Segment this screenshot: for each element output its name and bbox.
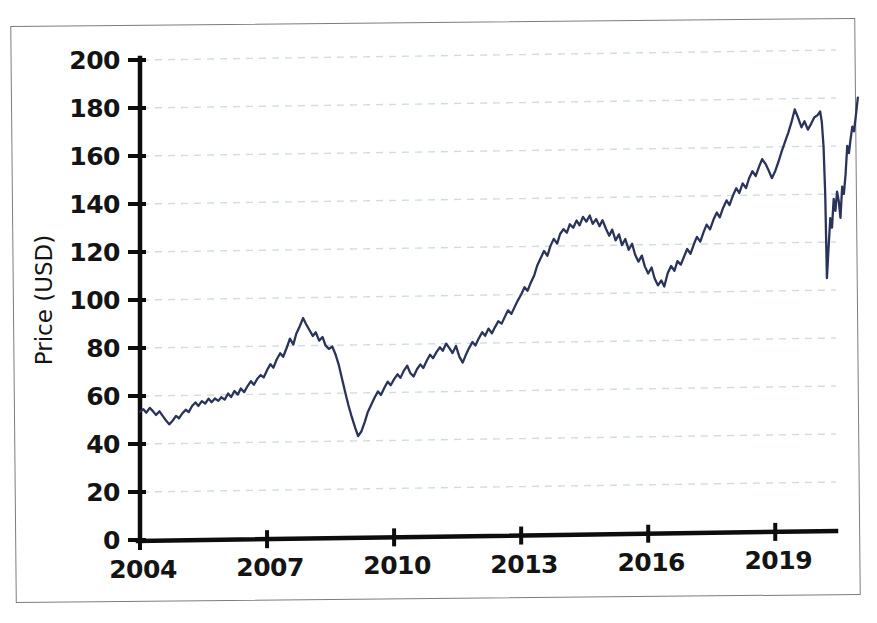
y-tick-label: 20	[86, 478, 120, 507]
y-tick-label: 180	[69, 94, 120, 123]
y-tick-label: 120	[69, 238, 120, 267]
gridline	[142, 50, 836, 60]
gridline	[142, 242, 836, 252]
y-tick-label: 100	[69, 286, 120, 315]
y-tick-group: 020406080100120140160180200	[69, 46, 146, 555]
y-axis-title: Price (USD)	[31, 235, 57, 366]
y-tick-label: 80	[86, 334, 120, 363]
gridline	[142, 98, 836, 108]
x-tick-label: 2019	[744, 546, 812, 575]
price-series-line	[140, 98, 858, 436]
chart-page: 020406080100120140160180200 200420072010…	[0, 0, 877, 623]
line-chart: 020406080100120140160180200 200420072010…	[0, 0, 877, 623]
y-tick-label: 140	[69, 190, 120, 219]
y-tick-label: 40	[86, 430, 120, 459]
x-tick-label: 2013	[490, 550, 558, 579]
gridline-group	[142, 50, 836, 492]
y-tick-label: 0	[103, 526, 120, 555]
x-tick-label: 2004	[109, 555, 177, 584]
x-tick-label: 2016	[617, 548, 685, 577]
gridline	[142, 434, 836, 444]
y-tick-label: 200	[69, 46, 120, 75]
x-axis-line	[138, 531, 836, 541]
gridline	[142, 290, 836, 300]
y-tick-label: 160	[69, 142, 120, 171]
y-tick-label: 60	[86, 382, 120, 411]
x-tick-label: 2007	[236, 553, 304, 582]
x-tick-label: 2010	[363, 551, 431, 580]
gridline	[142, 338, 836, 348]
gridline	[142, 146, 836, 156]
gridline	[142, 482, 836, 492]
